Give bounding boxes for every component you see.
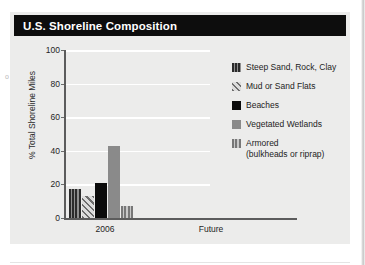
legend-swatch-icon: [232, 63, 241, 72]
x-axis-line: [64, 218, 297, 220]
chart-legend: Steep Sand, Rock, ClayMud or Sand FlatsB…: [232, 62, 346, 168]
y-axis-tick-label: 20: [51, 179, 60, 189]
legend-label-sub: (bulkheads or riprap): [246, 149, 324, 160]
page-bleed-left-text: o: [1, 60, 9, 94]
legend-item: Steep Sand, Rock, Clay: [232, 62, 346, 73]
legend-item: Beaches: [232, 100, 346, 111]
page-bottom-rule: [10, 262, 350, 263]
page-edge-rule: [361, 0, 365, 265]
y-axis-label: % Total Shoreline Miles: [27, 55, 37, 175]
legend-swatch-icon: [232, 120, 241, 129]
legend-swatch-icon: [232, 101, 241, 110]
legend-label: Beaches: [246, 100, 279, 111]
y-axis-tick-label: 60: [51, 112, 60, 122]
plot-area: % Total Shoreline Miles 020406080100 200…: [14, 36, 346, 240]
bar-beaches: [95, 183, 107, 218]
legend-label: Vegetated Wetlands: [246, 119, 322, 130]
legend-label: Mud or Sand Flats: [246, 81, 315, 92]
legend-label: Steep Sand, Rock, Clay: [246, 62, 336, 73]
y-axis-tick-label: 0: [55, 213, 60, 223]
legend-item: Armored(bulkheads or riprap): [232, 138, 346, 159]
x-axis-tick-label-2006: 2006: [96, 224, 115, 234]
bar-mud-or-sand-flats: [82, 196, 94, 218]
chart-title-bar: U.S. Shoreline Composition: [14, 15, 346, 36]
page-title: U.S. Shoreline Composition: [14, 20, 177, 32]
bar-group-2006: [65, 50, 211, 218]
bar-armored-bulkheads-or-riprap: [121, 206, 133, 218]
chart-panel: U.S. Shoreline Composition % Total Shore…: [10, 12, 350, 244]
bar-vegetated-wetlands: [108, 146, 120, 218]
legend-swatch-icon: [232, 82, 241, 91]
figure-page: o y U.S. Shoreline Composition % Total S…: [0, 0, 365, 265]
legend-label: Armored(bulkheads or riprap): [246, 138, 324, 159]
y-axis-tick-label: 40: [51, 146, 60, 156]
legend-item: Vegetated Wetlands: [232, 119, 346, 130]
y-axis-tick-label: 80: [51, 79, 60, 89]
legend-swatch-icon: [232, 139, 241, 148]
y-axis-tick-label: 100: [46, 45, 60, 55]
x-axis-tick-label-future: Future: [199, 224, 224, 234]
legend-item: Mud or Sand Flats: [232, 81, 346, 92]
bar-steep-sand-rock-clay: [69, 189, 81, 218]
